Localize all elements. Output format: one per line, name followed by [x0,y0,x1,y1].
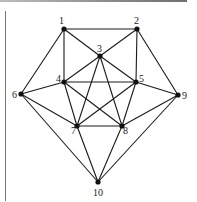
graph-diagram: 12345678910 [0,0,197,202]
edge-9-10 [98,95,178,182]
edge-3-5 [100,56,136,82]
node-label: 6 [12,89,17,100]
edge-5-7 [77,82,136,126]
edge-8-10 [98,126,122,182]
graph-labels: 12345678910 [12,15,187,198]
edge-7-10 [77,126,98,182]
node-label: 10 [93,187,103,198]
node-label: 1 [59,15,64,26]
node-label: 9 [182,90,187,101]
node-3 [97,53,102,58]
node-label: 2 [134,15,139,26]
edge-3-7 [77,56,100,126]
edge-2-9 [137,29,178,95]
edge-2-3 [100,29,137,56]
edge-2-5 [136,29,137,82]
node-label: 3 [97,43,102,54]
node-label: 8 [123,125,128,136]
node-6 [18,91,23,96]
node-label: 7 [71,125,76,136]
node-9 [175,92,180,97]
node-4 [61,79,66,84]
node-10 [95,179,100,184]
node-1 [61,26,66,31]
edge-4-8 [64,82,122,126]
edge-6-10 [21,94,98,182]
node-5 [133,79,138,84]
node-label: 4 [56,73,61,84]
node-2 [134,26,139,31]
edge-3-4 [64,56,100,82]
edge-1-3 [64,29,100,56]
edge-3-8 [100,56,122,126]
node-label: 5 [139,73,144,84]
